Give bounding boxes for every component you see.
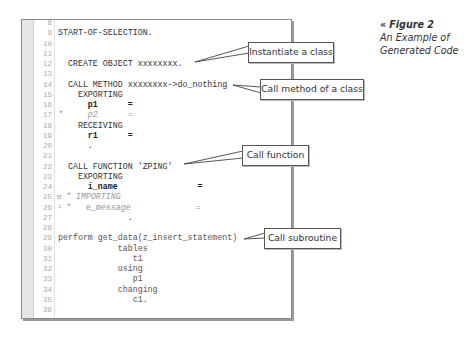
code-text: START-OF-SELECTION. <box>58 28 153 38</box>
line-number: 30 <box>34 244 52 254</box>
code-line: 24 i_name = <box>22 182 291 192</box>
figure-title-line1: An Example of <box>380 31 459 44</box>
code-line: 8 <box>22 19 291 28</box>
code-line: 9START-OF-SELECTION. <box>22 28 291 38</box>
code-text: tables <box>58 244 148 254</box>
code-line: 36 <box>22 305 291 315</box>
line-number: 24 <box>34 182 52 192</box>
code-line: 27 . <box>22 213 291 223</box>
code-line: 30 tables <box>22 244 291 254</box>
line-number: 34 <box>34 285 52 295</box>
line-number: 20 <box>34 141 52 151</box>
chevron-left-icon: « <box>380 19 386 30</box>
code-text: CALL FUNCTION 'ZPING' <box>58 162 173 172</box>
callout-call-function: Call function <box>242 145 309 166</box>
line-number: 13 <box>34 69 52 79</box>
line-number: 21 <box>34 151 52 161</box>
code-text: p1 <box>58 274 143 284</box>
line-number: 36 <box>34 305 52 315</box>
code-text: RECEIVING <box>58 121 123 131</box>
code-text: perform get_data(z_insert_statement) <box>58 233 237 243</box>
line-number: 23 <box>34 172 52 182</box>
code-text: CALL METHOD xxxxxxxx->do_nothing <box>58 80 227 90</box>
line-number: 32 <box>34 264 52 274</box>
code-text: t1 <box>58 254 143 264</box>
figure-label: Figure 2 <box>389 19 434 30</box>
code-text: * IMPORTING <box>66 192 121 202</box>
code-line: 25⊟* IMPORTING <box>22 192 291 202</box>
code-line: 15 EXPORTING <box>22 90 291 100</box>
line-number: 12 <box>34 59 52 69</box>
code-text: i_name = <box>58 182 202 192</box>
code-line: 32 using <box>22 264 291 274</box>
code-text: * e_message = <box>66 203 200 213</box>
code-editor: 89START-OF-SELECTION.101112 CREATE OBJEC… <box>21 19 292 319</box>
figure-caption: «Figure 2 An Example of Generated Code <box>380 18 459 57</box>
code-line: 33 p1 <box>22 274 291 284</box>
line-number: 14 <box>34 80 52 90</box>
line-number: 29 <box>34 233 52 243</box>
code-line: 13 <box>22 69 291 79</box>
line-number: 11 <box>34 49 52 59</box>
code-text: EXPORTING <box>58 90 123 100</box>
code-text: using <box>58 264 143 274</box>
line-number: 26 <box>34 203 52 213</box>
collapse-icon[interactable]: ⊟ <box>57 192 61 202</box>
code-text: EXPORTING <box>58 172 123 182</box>
line-number: 18 <box>34 121 52 131</box>
line-number: 31 <box>34 254 52 264</box>
code-text: . <box>58 141 93 151</box>
code-line: 34 changing <box>22 285 291 295</box>
figure-title-line2: Generated Code <box>380 44 459 57</box>
code-text: CREATE OBJECT xxxxxxxx. <box>58 59 182 69</box>
code-line: 35 c1. <box>22 295 291 305</box>
line-number: 15 <box>34 90 52 100</box>
line-number: 9 <box>34 28 52 38</box>
code-line: 14 CALL METHOD xxxxxxxx->do_nothing <box>22 80 291 90</box>
callout-call-subroutine: Call subroutine <box>264 228 341 249</box>
fold-guide-icon: └ <box>57 203 61 213</box>
callout-instantiate-class: Instantiate a class <box>248 42 334 63</box>
code-line: 17* p2 = <box>22 110 291 120</box>
line-number: 19 <box>34 131 52 141</box>
line-number: 16 <box>34 100 52 110</box>
code-line: 29perform get_data(z_insert_statement) <box>22 233 291 243</box>
line-number: 25 <box>34 192 52 202</box>
line-number: 33 <box>34 274 52 284</box>
callout-call-method: Call method of a class <box>260 79 364 100</box>
line-number: 8 <box>34 19 52 28</box>
code-text: c1. <box>58 295 148 305</box>
code-text: . <box>58 213 133 223</box>
line-number: 22 <box>34 162 52 172</box>
code-text: changing <box>58 285 158 295</box>
code-text: r1 = <box>58 131 133 141</box>
line-number: 28 <box>34 223 52 233</box>
code-line: 28 <box>22 223 291 233</box>
code-line: 31 t1 <box>22 254 291 264</box>
line-number: 10 <box>34 39 52 49</box>
code-line: 16 p1 = <box>22 100 291 110</box>
code-line: 26└* e_message = <box>22 203 291 213</box>
code-line: 23 EXPORTING <box>22 172 291 182</box>
code-text: * p2 = <box>58 110 133 120</box>
line-number: 27 <box>34 213 52 223</box>
line-number: 17 <box>34 110 52 120</box>
code-text: p1 = <box>58 100 133 110</box>
line-number: 35 <box>34 295 52 305</box>
code-line: 19 r1 = <box>22 131 291 141</box>
code-line: 18 RECEIVING <box>22 121 291 131</box>
